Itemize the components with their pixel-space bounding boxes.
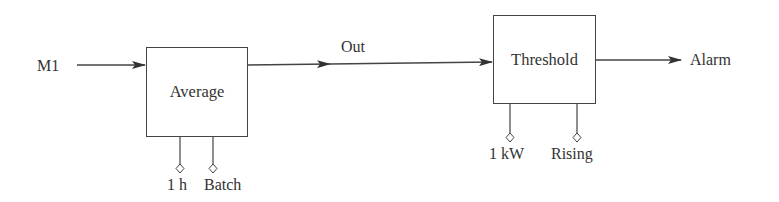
- param-port-diamond-icon: [209, 164, 217, 173]
- param-port-diamond-icon: [176, 164, 184, 173]
- connection-label-out: Out: [341, 38, 365, 56]
- param-port-diamond-icon: [573, 133, 581, 142]
- param-average-mode: Batch: [204, 176, 241, 194]
- param-port-diamond-icon: [506, 133, 514, 142]
- arrow-out-to-threshold: [330, 62, 492, 64]
- param-average-window: 1 h: [167, 176, 187, 194]
- block-threshold: Threshold: [493, 15, 596, 104]
- block-average-label: Average: [170, 82, 225, 102]
- block-threshold-label: Threshold: [511, 50, 578, 70]
- input-label-m1: M1: [37, 57, 59, 75]
- line-average-out: [247, 64, 330, 65]
- connectors: [0, 0, 779, 202]
- flow-diagram: M1 Average 1 h Batch Out Threshold 1 kW …: [0, 0, 779, 202]
- param-threshold-value: 1 kW: [489, 145, 524, 163]
- output-label-alarm: Alarm: [690, 51, 731, 69]
- param-threshold-edge: Rising: [551, 145, 593, 163]
- block-average: Average: [146, 47, 248, 137]
